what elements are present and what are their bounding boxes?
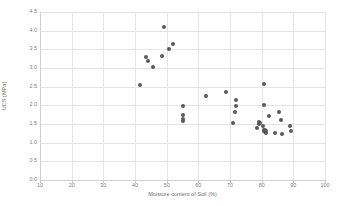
scatter-point	[279, 118, 283, 122]
gridline-vertical	[72, 12, 73, 180]
x-tick-mark	[262, 180, 263, 183]
scatter-point	[273, 131, 277, 135]
scatter-point	[181, 104, 185, 108]
x-tick-label: 80	[250, 183, 274, 188]
gridline-horizontal	[40, 12, 325, 13]
y-tick-label: 4.5	[1, 9, 37, 14]
gridline-vertical	[167, 12, 168, 180]
gridline-vertical	[262, 12, 263, 180]
x-tick-label: 10	[28, 183, 52, 188]
scatter-point	[255, 126, 259, 130]
scatter-point	[262, 103, 266, 107]
gridline-horizontal	[40, 161, 325, 162]
x-tick-mark	[103, 180, 104, 183]
y-tick-label: 0.5	[1, 159, 37, 164]
gridline-vertical	[293, 12, 294, 180]
y-tick-label: 3.0	[1, 65, 37, 70]
scatter-chart: 0.00.51.01.52.02.53.03.54.04.5 Moisture …	[0, 0, 346, 206]
scatter-point	[171, 42, 175, 46]
x-tick-label: 60	[186, 183, 210, 188]
y-tick-label: 1.5	[1, 121, 37, 126]
scatter-point	[181, 113, 185, 117]
gridline-vertical	[198, 12, 199, 180]
scatter-point	[277, 110, 281, 114]
gridline-vertical	[103, 12, 104, 180]
x-tick-mark	[198, 180, 199, 183]
scatter-point	[224, 90, 228, 94]
gridline-horizontal	[40, 124, 325, 125]
x-tick-label: 50	[155, 183, 179, 188]
gridline-vertical	[230, 12, 231, 180]
scatter-point	[234, 98, 238, 102]
x-axis-line	[40, 180, 325, 181]
x-axis-title: Moisture content of Soil (%)	[40, 192, 325, 198]
x-tick-label: 20	[60, 183, 84, 188]
scatter-point	[181, 119, 185, 123]
x-tick-mark	[230, 180, 231, 183]
x-tick-label: 70	[218, 183, 242, 188]
gridline-horizontal	[40, 143, 325, 144]
x-tick-label: 90	[281, 183, 305, 188]
scatter-point	[160, 54, 164, 58]
x-tick-label: 100	[313, 183, 337, 188]
scatter-point	[267, 114, 271, 118]
gridline-horizontal	[40, 31, 325, 32]
gridline-horizontal	[40, 68, 325, 69]
gridline-horizontal	[40, 87, 325, 88]
scatter-point	[234, 104, 238, 108]
scatter-point	[146, 59, 150, 63]
x-tick-mark	[325, 180, 326, 183]
scatter-point	[288, 124, 292, 128]
y-tick-label: 3.5	[1, 47, 37, 52]
y-tick-label: 4.0	[1, 28, 37, 33]
y-tick-label: 0.0	[1, 177, 37, 182]
y-axis-line	[40, 12, 41, 180]
y-axis-title: UCS (MPa)	[2, 82, 8, 111]
gridline-horizontal	[40, 49, 325, 50]
x-tick-mark	[72, 180, 73, 183]
x-tick-label: 30	[91, 183, 115, 188]
scatter-point	[138, 83, 142, 87]
gridline-vertical	[325, 12, 326, 180]
y-tick-label: 1.0	[1, 140, 37, 145]
scatter-point	[204, 94, 208, 98]
x-tick-mark	[40, 180, 41, 183]
scatter-point	[262, 82, 266, 86]
scatter-point	[280, 132, 284, 136]
plot-area	[40, 12, 325, 180]
scatter-point	[167, 47, 171, 51]
scatter-point	[151, 65, 155, 69]
x-tick-mark	[135, 180, 136, 183]
x-tick-mark	[293, 180, 294, 183]
x-tick-mark	[167, 180, 168, 183]
gridline-vertical	[135, 12, 136, 180]
x-tick-label: 40	[123, 183, 147, 188]
scatter-point	[233, 110, 237, 114]
